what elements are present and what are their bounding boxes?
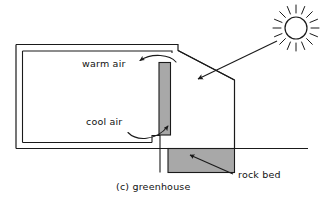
rock-bed-label: rock bed [238, 169, 281, 180]
figure-caption: (c) greenhouse [116, 181, 191, 192]
cool-air-label: cool air [86, 116, 122, 127]
sun-icon [273, 5, 319, 51]
greenhouse-diagram: warm air cool air rock bed (c) greenhous… [0, 0, 334, 199]
warm-air-label: warm air [82, 58, 126, 69]
curved-arrow-left-icon [140, 55, 176, 62]
sunbeam-arrow-icon [198, 41, 277, 79]
return-air-duct-notch [152, 136, 160, 149]
greenhouse-inner-top-wall [23, 51, 173, 53]
thermal-mass-slab [159, 63, 171, 136]
diagram-canvas: warm air cool air rock bed (c) greenhous… [0, 0, 334, 199]
